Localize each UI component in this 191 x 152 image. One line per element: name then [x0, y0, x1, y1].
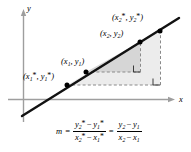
fraction-numerator: y2*−y1* [73, 119, 106, 131]
paren-close: ) [120, 28, 123, 38]
minus-sign: − [125, 119, 133, 129]
minus-sign: − [125, 132, 133, 142]
slope-similar-triangles-figure: y x (x2*, y2*) (x2, y2) (x1, y1) (x1*, y… [0, 0, 191, 152]
x-axis-label: x [179, 95, 183, 104]
fraction-denominator: x2*−x1* [73, 132, 106, 144]
formula-fraction-plain: y2−y1 x2−x1 [117, 119, 142, 144]
y-axis-arrowhead [21, 9, 26, 16]
x-axis-arrowhead [168, 97, 175, 102]
point-p2-star [158, 29, 163, 34]
point-label-p1: (x1, y1) [61, 57, 84, 67]
formula-fraction-starred: y2*−y1* x2*−x1* [73, 119, 106, 144]
paren-close: ) [51, 71, 54, 81]
paren-close: ) [81, 56, 84, 66]
fraction-numerator: y2−y1 [117, 119, 142, 131]
term-b-star: * [100, 119, 104, 128]
point-p1-star [65, 83, 70, 88]
term-b-sub: 1 [137, 124, 140, 130]
fraction-denominator: x2−x1 [117, 132, 142, 144]
slope-formula: m = y2*−y1* x2*−x1* = y2−y1 x2−x1 [56, 119, 142, 144]
paren-close: ) [140, 12, 143, 22]
term-b-sub: 1 [137, 136, 140, 142]
point-label-p2: (x2, y2) [100, 29, 123, 39]
point-p2 [138, 40, 143, 45]
point-p1 [84, 70, 89, 75]
point-label-p1-star: (x1*, y1*) [23, 72, 54, 82]
point-label-p2-star: (x2*, y2*) [112, 13, 143, 23]
y-axis-label: y [27, 4, 31, 13]
term-b-star: * [100, 132, 104, 141]
formula-equals-2: = [106, 126, 117, 136]
formula-equals-1: = [62, 126, 73, 136]
